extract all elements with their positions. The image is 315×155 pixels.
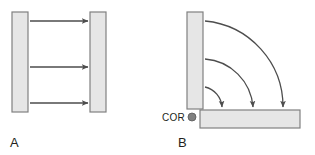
- panel-b-label: B: [178, 135, 187, 150]
- panel-b-vertical-block: [187, 12, 203, 109]
- figure-container: A COR B: [0, 0, 315, 155]
- panel-a-right-block: [90, 12, 106, 112]
- cor-label: COR: [162, 112, 185, 123]
- panel-b-horizontal-block: [200, 110, 300, 128]
- diagram-svg: A COR B: [0, 0, 315, 155]
- panel-a-left-block: [12, 12, 28, 112]
- cor-dot-icon: [188, 113, 196, 121]
- panel-a-label: A: [10, 135, 19, 150]
- figure-background: [0, 0, 315, 155]
